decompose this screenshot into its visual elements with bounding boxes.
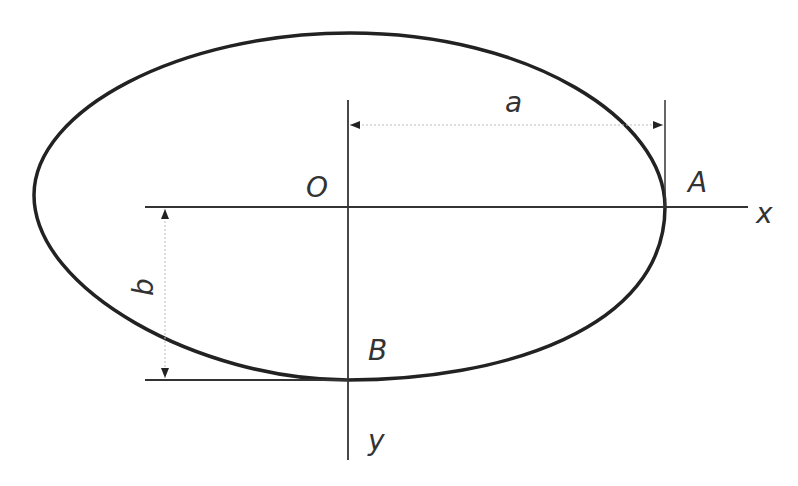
label-y-axis: y: [367, 424, 385, 457]
label-point-a: A: [686, 166, 707, 199]
label-origin-o: O: [306, 171, 328, 204]
ellipse-diagram: a O A x b B y: [0, 0, 798, 486]
label-semi-minor-b: b: [127, 278, 160, 296]
label-point-b: B: [368, 334, 387, 367]
label-semi-major-a: a: [505, 86, 522, 119]
label-x-axis: x: [755, 197, 773, 230]
